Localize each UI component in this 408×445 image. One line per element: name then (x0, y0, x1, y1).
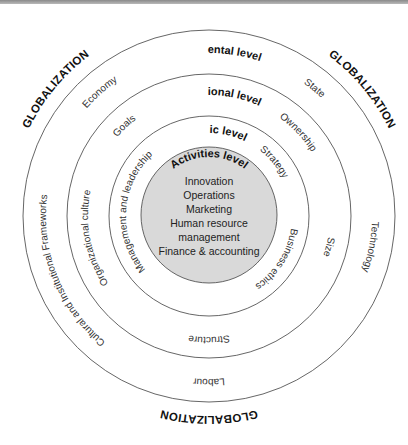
activity-item: Operations (183, 189, 234, 201)
activity-item: Human resource (170, 217, 248, 229)
factor-ownership: Ownership (278, 110, 320, 153)
activity-item: Innovation (185, 175, 234, 187)
factor-organizational-culture: Organizational culture (79, 188, 110, 288)
globalization-label-bottom: GLOBALIZATION (159, 408, 259, 426)
factor-size: Size (321, 236, 337, 258)
activity-item: management (178, 231, 239, 243)
activity-item: Finance & accounting (159, 245, 260, 257)
factor-technology: Technology (360, 221, 380, 274)
environmental-level-label: Environmental level (0, 0, 263, 63)
factor-state: State (302, 76, 328, 100)
activities-core (141, 147, 277, 283)
factor-economy: Economy (80, 74, 119, 110)
globalization-label-right: GLOBALIZATION (327, 47, 398, 130)
factor-goals: Goals (110, 112, 137, 138)
globalization-label-left: GLOBALIZATION (20, 47, 91, 130)
factor-structure: Structure (187, 333, 230, 346)
activity-item: Marketing (186, 203, 232, 215)
levels-diagram: Environmental level Organizational level… (0, 0, 408, 445)
factor-labour: Labour (192, 376, 225, 388)
